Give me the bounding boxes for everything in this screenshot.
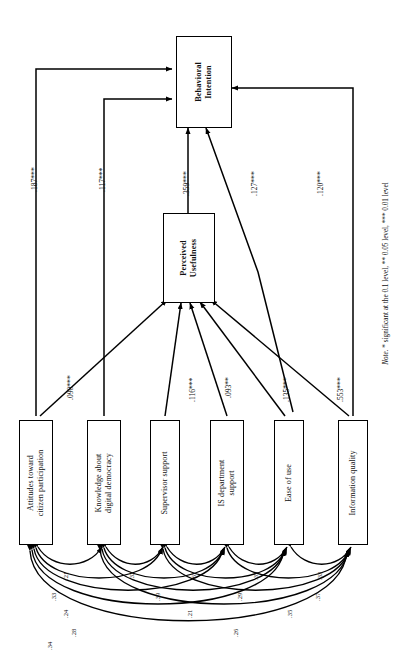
corr-label-kno-eou: .21 (186, 610, 193, 618)
edge-supervisor-to-pu (165, 303, 181, 416)
path-label-attitudes-to-pu: .090*** (66, 375, 75, 400)
node-information-quality[interactable]: Information quality (338, 420, 368, 545)
corr-label-sup-inf: .35 (286, 610, 293, 618)
node-behavioral-intention-label: Behavioral Intention (194, 62, 214, 102)
node-supervisor-support[interactable]: Supervisor support (150, 420, 180, 545)
arc-kno-sup (106, 547, 163, 564)
path-label-easeofuse-to-bi: .127*** (250, 171, 259, 196)
node-behavioral-intention[interactable]: Behavioral Intention (176, 36, 232, 128)
figure-note: Note. * significant at the 0.1 level, **… (374, 182, 398, 372)
figure-note-prefix: Note. (382, 349, 390, 364)
path-label-pu-to-bi: .359*** (182, 171, 191, 196)
corr-label-isd-inf: .37 (314, 593, 321, 601)
path-label-knowledge-to-bi: .117*** (98, 168, 107, 192)
corr-label-att-sup: .33 (50, 593, 57, 601)
corr-label-eou-inf: .33 (316, 572, 323, 580)
node-ease-of-use[interactable]: Ease of use (274, 420, 304, 545)
node-knowledge-label: Knowledge about digital democracy (94, 453, 114, 513)
node-information-quality-label: Information quality (348, 450, 358, 515)
edge-infoquality-to-pu (211, 300, 349, 416)
path-label-supervisor-to-pu: .116*** (188, 378, 197, 402)
corr-label-kno-isd: .39 (154, 593, 161, 601)
node-supervisor-label: Supervisor support (160, 451, 170, 514)
path-label-infoquality-to-pu: .553*** (336, 377, 345, 402)
corr-label-sup-eou: .29 (236, 593, 243, 601)
corr-label-sup-isd: .67 (190, 572, 197, 580)
figure-note-body: * significant at the 0.1 level, ** 0.05 … (382, 182, 390, 349)
corr-label-att-eou: .28 (70, 629, 77, 637)
node-attitudes-label: Attitudes toward citizen participation (26, 449, 46, 516)
node-attitudes-toward-citizen-participation[interactable]: Attitudes toward citizen participation (19, 420, 53, 545)
edge-knowledge-to-bi (104, 99, 172, 416)
edge-easeofuse-to-pu (200, 302, 285, 416)
node-knowledge-about-digital-democracy[interactable]: Knowledge about digital democracy (87, 420, 121, 545)
corr-label-kno-inf: .26 (232, 629, 239, 637)
corr-label-att-isd: .24 (62, 610, 69, 618)
node-is-department-support[interactable]: IS department support (210, 420, 244, 545)
node-ease-of-use-label: Ease of use (284, 464, 294, 502)
path-label-easeofuse-to-pu: .135*** (282, 377, 291, 402)
corr-label-att-kno: .21 (62, 572, 69, 580)
corr-label-att-inf: .34 (46, 642, 53, 650)
corr-label-kno-sup: .32 (128, 572, 135, 580)
node-perceived-usefulness[interactable]: Perceived Usefulness (163, 213, 215, 303)
path-label-attitudes-to-bi: .187*** (30, 167, 39, 192)
path-label-infoquality-to-bi: .120*** (316, 171, 325, 196)
corr-label-isd-eou: .35 (252, 572, 259, 580)
path-label-isdepartment-to-pu: .093** (224, 377, 233, 398)
arc-att-kno (38, 547, 102, 564)
node-perceived-usefulness-label: Perceived Usefulness (179, 239, 199, 277)
arc-att-isd (34, 549, 223, 590)
figure-canvas: Behavioral Intention Perceived Usefulnes… (0, 0, 407, 658)
node-is-department-label: IS department support (217, 459, 237, 506)
